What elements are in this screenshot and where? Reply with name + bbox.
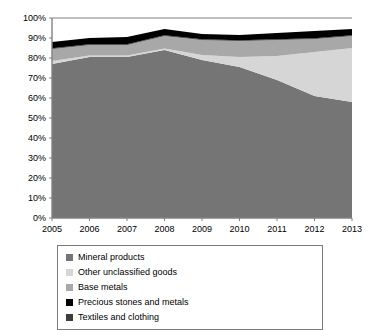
legend-swatch-icon [66, 284, 73, 291]
y-tick-label: 60% [28, 93, 46, 103]
legend-item[interactable]: Mineral products [66, 251, 190, 264]
x-tick-label: 2009 [192, 224, 212, 234]
x-tick-label: 2008 [154, 224, 174, 234]
y-tick-label: 70% [28, 73, 46, 83]
legend-grid: Mineral productsOther unclassified goods… [66, 250, 316, 325]
y-tick-label: 50% [28, 113, 46, 123]
x-tick-label: 2007 [117, 224, 137, 234]
legend-swatch-icon [66, 314, 73, 321]
y-tick-label: 100% [23, 13, 46, 23]
legend-label: Other unclassified goods [78, 266, 177, 279]
x-tick-label: 2012 [304, 224, 324, 234]
legend-item[interactable]: Textiles and clothing [66, 311, 190, 324]
x-tick-label: 2011 [267, 224, 286, 234]
legend-swatch-icon [66, 269, 73, 276]
plot-area: 0%10%20%30%40%50%60%70%80%90%100%2005200… [0, 0, 381, 235]
legend-swatch-icon [66, 254, 73, 261]
y-tick-label: 10% [28, 193, 46, 203]
legend-item[interactable]: Precious stones and metals [66, 296, 200, 309]
stacked-area-chart: 0%10%20%30%40%50%60%70%80%90%100%2005200… [0, 0, 381, 235]
legend-label: Precious stones and metals [78, 296, 189, 309]
x-tick-label: 2013 [342, 224, 362, 234]
x-tick-label: 2005 [42, 224, 62, 234]
y-tick-label: 90% [28, 33, 46, 43]
legend-item[interactable]: Other unclassified goods [66, 266, 200, 279]
legend-label: Base metals [78, 281, 128, 294]
y-tick-label: 40% [28, 133, 46, 143]
x-tick-label: 2006 [79, 224, 99, 234]
x-tick-label: 2010 [229, 224, 249, 234]
y-tick-label: 30% [28, 153, 46, 163]
y-tick-label: 80% [28, 53, 46, 63]
y-tick-label: 20% [28, 173, 46, 183]
legend-label: Textiles and clothing [78, 311, 159, 324]
legend-item[interactable]: Base metals [66, 281, 190, 294]
y-tick-label: 0% [33, 213, 46, 223]
legend-swatch-icon [66, 299, 73, 306]
legend-label: Mineral products [78, 251, 145, 264]
chart-legend: Mineral productsOther unclassified goods… [57, 245, 323, 330]
